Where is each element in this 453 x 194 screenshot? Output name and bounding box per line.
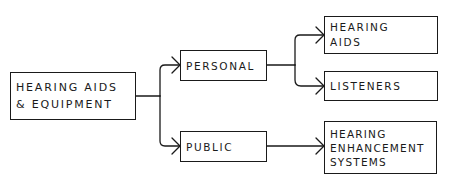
node-label-line: Hearing [330,127,431,141]
node-label-line: Listeners [330,79,432,93]
node-label-line: Public [186,140,261,154]
node-hearing-aids: Hearing Aids [324,16,438,54]
node-label-line: Aids [330,35,432,50]
node-hearing-enhancement-systems: Hearing Enhancement Systems [324,121,437,174]
node-label-line: Enhancement [330,141,431,155]
node-personal: Personal [180,50,267,81]
node-listeners: Listeners [324,71,438,101]
node-label-line: Hearing Aids [16,79,130,96]
connector-root-to-public [160,96,179,146]
node-hearing-aids-and-equipment: Hearing Aids & Equipment [10,72,136,120]
node-label-line: Systems [330,155,431,169]
node-label-line: Personal [186,59,261,73]
hearing-aids-diagram: Hearing Aids & Equipment Personal Public… [0,0,453,194]
node-label-line: Hearing [330,20,432,35]
connector-personal-to-listeners [295,65,323,86]
node-public: Public [180,131,267,162]
node-label-line: & Equipment [16,96,130,113]
